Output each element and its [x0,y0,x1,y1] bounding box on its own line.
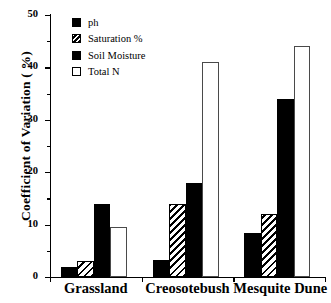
y-tick-label: 50 [28,8,39,19]
y-tick-mark [45,15,50,16]
legend-item-saturation: Saturation % [72,32,145,46]
bar-total-n-creosotebush [202,62,219,277]
legend-label: ph [88,17,99,28]
legend-swatch-icon [72,34,81,43]
bar-ph-grassland [61,267,78,277]
x-axis-label-grassland: Grassland [50,280,142,297]
y-tick-mark [45,67,50,68]
y-tick-mark [45,172,50,173]
bar-soil-moisture-grassland [94,204,111,277]
bar-total-n-grassland [110,227,127,277]
y-tick-mark [47,94,50,95]
y-tick-mark [47,198,50,199]
bar-saturation-mesquite-dune [261,214,278,277]
bar-saturation-grassland [77,261,94,277]
legend-swatch-icon [72,67,81,76]
bar-saturation-creosotebush [169,204,186,277]
bar-soil-moisture-creosotebush [186,183,203,277]
bar-ph-mesquite-dune [244,233,261,277]
y-tick-label: 0 [33,270,38,281]
x-axis-label-creosotebush: Creosotebush [142,280,234,297]
legend-label: Total N [88,66,120,77]
legend-swatch-icon [72,18,81,27]
chart-figure: Coefficient of Variation ( %) 0102030405… [0,0,331,303]
y-tick-mark [45,225,50,226]
y-tick-label: 40 [28,60,39,71]
y-tick-mark [47,41,50,42]
legend-swatch-icon [72,51,81,60]
y-tick-mark [45,120,50,121]
legend-item-soil-moisture: Soil Moisture [72,48,145,62]
y-tick-mark [47,146,50,147]
legend-label: Soil Moisture [88,50,145,61]
bar-ph-creosotebush [153,260,170,277]
bar-total-n-mesquite-dune [294,46,311,277]
legend-item-total-n: Total N [72,65,145,79]
y-tick-mark [47,251,50,252]
legend-label: Saturation % [88,33,143,44]
bar-soil-moisture-mesquite-dune [277,99,294,277]
x-axis-label-mesquite-dune: Mesquite Dune [233,280,325,297]
x-axis-line [50,277,326,278]
y-tick-label: 20 [28,165,39,176]
y-tick-label: 10 [28,218,39,229]
legend: phSaturation %Soil MoistureTotal N [72,15,145,81]
y-tick-label: 30 [28,113,39,124]
legend-item-ph: ph [72,15,145,29]
